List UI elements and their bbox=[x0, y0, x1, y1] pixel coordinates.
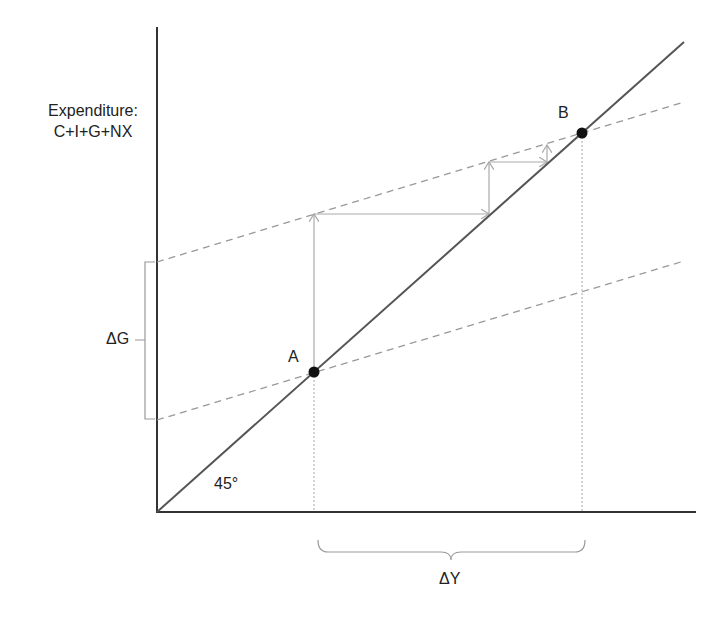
point-b bbox=[577, 128, 588, 139]
ae-line-upper bbox=[157, 102, 684, 262]
point-a bbox=[309, 367, 320, 378]
delta-g-bracket bbox=[135, 262, 155, 419]
delta-g-label: ΔG bbox=[106, 330, 129, 348]
keynesian-cross-diagram bbox=[0, 0, 721, 619]
delta-y-brace bbox=[318, 540, 585, 560]
delta-y-label: ΔY bbox=[439, 570, 460, 588]
y-axis-label: Expenditure: C+I+G+NX bbox=[30, 100, 156, 142]
y-axis-label-line1: Expenditure: bbox=[30, 100, 156, 121]
ae-line-lower bbox=[157, 261, 684, 420]
line-45-degree bbox=[157, 42, 684, 512]
point-a-label: A bbox=[288, 348, 299, 366]
point-b-label: B bbox=[558, 104, 569, 122]
y-axis-label-line2: C+I+G+NX bbox=[30, 121, 156, 142]
angle-label: 45° bbox=[214, 475, 238, 493]
